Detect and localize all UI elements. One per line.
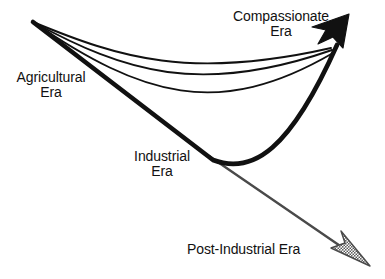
trajectory-diagram-svg [0, 0, 385, 279]
label-compassionate-era-line2: Era [225, 24, 337, 39]
label-industrial-era: Industrial Era [128, 149, 196, 179]
label-compassionate-era-line1: Compassionate [225, 9, 337, 24]
diagram-canvas: Agricultural Era Compassionate Era Indus… [0, 0, 385, 279]
label-agricultural-era-line2: Era [12, 85, 90, 100]
label-post-industrial-era-line1: Post-Industrial Era [187, 242, 327, 257]
label-industrial-era-line2: Era [128, 164, 196, 179]
label-agricultural-era: Agricultural Era [12, 70, 90, 100]
label-agricultural-era-line1: Agricultural [12, 70, 90, 85]
label-industrial-era-line1: Industrial [128, 149, 196, 164]
label-compassionate-era: Compassionate Era [225, 9, 337, 39]
label-post-industrial-era: Post-Industrial Era [187, 242, 327, 257]
